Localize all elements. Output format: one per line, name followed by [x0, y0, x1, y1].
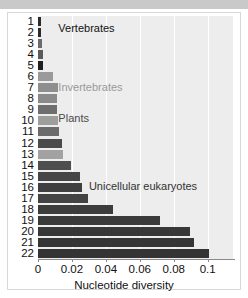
bar-1: [38, 17, 41, 26]
bar-row: [38, 72, 234, 81]
bar-6: [38, 72, 53, 81]
bar-19: [38, 216, 160, 225]
bar-8: [38, 94, 57, 103]
bar-row: [38, 216, 234, 225]
bar-4: [38, 50, 43, 59]
bar-row: [38, 39, 234, 48]
bar-13: [38, 150, 63, 159]
x-tick-mark-0: [38, 259, 39, 262]
x-tick-mark-2: [106, 259, 107, 262]
x-tick-mark-1: [72, 259, 73, 262]
x-tick-mark-3: [140, 259, 141, 262]
bar-5: [38, 61, 43, 70]
bar-9: [38, 105, 57, 114]
x-tick-label-5: 0.1: [200, 263, 216, 275]
x-tick-label-3: 0.06: [129, 263, 151, 275]
bar-row: [38, 139, 234, 148]
bar-11: [38, 127, 59, 136]
x-tick-label-1: 0.02: [61, 263, 83, 275]
bar-10: [38, 116, 58, 125]
figure-root: 12345678910111213141516171819202122 Vert…: [0, 0, 248, 298]
plot-area: VertebratesInvertebratesPlantsUnicellula…: [38, 16, 234, 259]
bar-14: [38, 161, 71, 170]
y-tick-label-11: 11: [8, 126, 34, 137]
bar-12: [38, 139, 62, 148]
bar-22: [38, 249, 209, 258]
y-tick-label-14: 14: [8, 160, 34, 171]
bar-row: [38, 249, 234, 258]
y-tick-label-15: 15: [8, 171, 34, 182]
y-tick-label-12: 12: [8, 138, 34, 149]
x-tick-label-4: 0.08: [163, 263, 185, 275]
x-tick-mark-4: [174, 259, 175, 262]
annotation-unicellular-eukaryotes: Unicellular eukaryotes: [89, 181, 197, 192]
y-tick-label-22: 22: [8, 248, 34, 259]
bar-21: [38, 238, 194, 247]
bar-row: [38, 161, 234, 170]
y-axis-tick-labels: 12345678910111213141516171819202122: [8, 16, 38, 259]
bar-2: [38, 28, 41, 37]
bar-17: [38, 194, 88, 203]
bar-row: [38, 61, 234, 70]
bar-row: [38, 50, 234, 59]
annotation-vertebrates: Vertebrates: [58, 23, 114, 34]
bar-row: [38, 205, 234, 214]
bar-row: [38, 194, 234, 203]
bar-16: [38, 183, 82, 192]
annotation-plants: Plants: [58, 113, 89, 124]
bar-7: [38, 83, 58, 92]
bar-row: [38, 94, 234, 103]
y-tick-label-13: 13: [8, 149, 34, 160]
x-tick-label-0: 0: [35, 263, 41, 275]
bar-15: [38, 172, 80, 181]
x-axis-line: [38, 259, 235, 260]
plot-card: 12345678910111213141516171819202122 Vert…: [7, 12, 241, 290]
x-tick-mark-5: [208, 259, 209, 262]
x-axis-title: Nucleotide diversity: [8, 279, 240, 291]
bar-3: [38, 39, 42, 48]
x-tick-label-2: 0.04: [95, 263, 117, 275]
bar-row: [38, 150, 234, 159]
bar-18: [38, 205, 113, 214]
bar-row: [38, 227, 234, 236]
bar-row: [38, 127, 234, 136]
bar-20: [38, 227, 190, 236]
top-gray-band: [0, 0, 248, 9]
bar-row: [38, 238, 234, 247]
annotation-invertebrates: Invertebrates: [58, 82, 122, 93]
